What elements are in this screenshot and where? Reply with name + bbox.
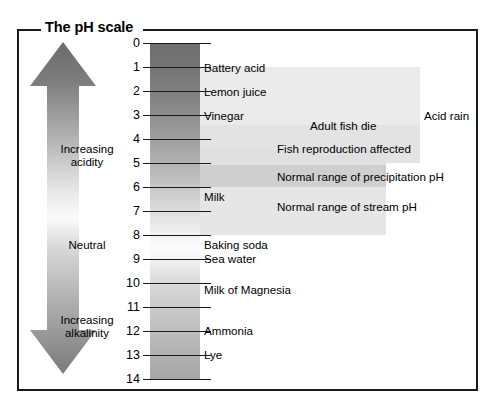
tick-line-ph-8 [143, 235, 211, 237]
tick-label-ph-13: 13 [118, 349, 140, 361]
frame-border-top-left [17, 29, 41, 31]
substance-label-baking-soda: Baking soda [204, 238, 268, 251]
tick-line-ph-7 [143, 211, 211, 213]
band-label-acid-rain: Acid rain [424, 109, 469, 122]
substance-label-vinegar: Vinegar [204, 109, 244, 122]
tick-line-ph-5 [143, 163, 211, 165]
tick-label-ph-11: 11 [118, 301, 140, 313]
substance-label-lemon-juice: Lemon juice [204, 85, 267, 98]
tick-line-ph-0 [143, 43, 211, 45]
tick-line-ph-14 [143, 379, 211, 381]
tick-line-ph-11 [143, 307, 211, 309]
tick-label-ph-3: 3 [118, 109, 140, 121]
tick-line-ph-4 [143, 139, 211, 141]
frame-border-right [476, 29, 478, 391]
tick-label-ph-9: 9 [118, 253, 140, 265]
tick-label-ph-1: 1 [118, 61, 140, 73]
substance-label-milk: Milk [204, 190, 225, 203]
tick-label-ph-2: 2 [118, 85, 140, 97]
tick-label-ph-0: 0 [118, 37, 140, 49]
tick-line-ph-10 [143, 283, 211, 285]
tick-line-ph-13 [143, 355, 211, 357]
frame-border-top-right [143, 29, 478, 31]
tick-label-ph-10: 10 [118, 277, 140, 289]
ph-scale-figure: The pH scale Increasingacid [0, 0, 495, 404]
tick-line-ph-9 [143, 259, 211, 261]
substance-label-lye: Lye [204, 348, 222, 361]
tick-label-ph-5: 5 [118, 157, 140, 169]
band-label-normal-range-of-stream-ph: Normal range of stream pH [277, 200, 417, 213]
substance-label-sea-water: Sea water [204, 252, 256, 265]
tick-line-ph-3 [143, 115, 211, 117]
tick-label-ph-6: 6 [118, 181, 140, 193]
frame-border-bottom [17, 389, 478, 391]
tick-label-ph-8: 8 [118, 229, 140, 241]
tick-line-ph-1 [143, 67, 211, 69]
frame-border-left [17, 29, 19, 391]
band-label-fish-reproduction-affected: Fish reproduction affected [277, 142, 411, 155]
tick-line-ph-6 [143, 187, 211, 189]
tick-label-ph-12: 12 [118, 325, 140, 337]
tick-line-ph-12 [143, 331, 211, 333]
acidity-alkalinity-arrow: Increasingacidity Neutral Increasingalka… [24, 42, 102, 374]
tick-label-ph-4: 4 [118, 133, 140, 145]
band-label-normal-range-of-precipitation-ph: Normal range of precipitation pH [277, 170, 444, 183]
tick-line-ph-2 [143, 91, 211, 93]
substance-label-battery-acid: Battery acid [204, 61, 265, 74]
figure-title: The pH scale [45, 19, 133, 35]
substance-label-ammonia: Ammonia [204, 324, 253, 337]
substance-label-milk-of-magnesia: Milk of Magnesia [204, 283, 291, 296]
tick-label-ph-14: 14 [118, 373, 140, 385]
band-label-adult-fish-die: Adult fish die [310, 119, 376, 132]
tick-label-ph-7: 7 [118, 205, 140, 217]
